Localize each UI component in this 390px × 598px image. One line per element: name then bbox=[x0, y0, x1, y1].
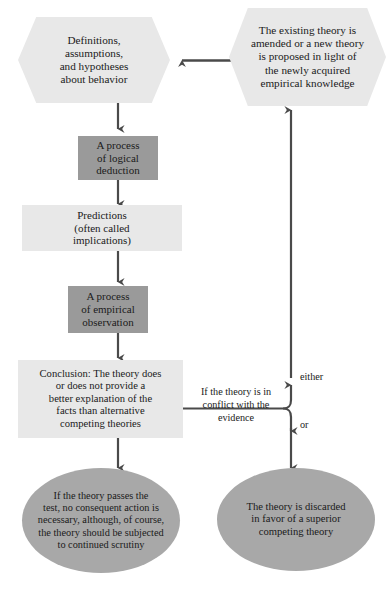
node-amended-theory-text: The existing theory is amended or a new … bbox=[251, 24, 364, 90]
node-definitions-text: Definitions, assumptions, and hypotheses… bbox=[60, 34, 129, 87]
node-theory-discarded-ellipse: The theory is discarded in favor of a su… bbox=[217, 468, 375, 571]
node-theory-discarded-text: The theory is discarded in favor of a su… bbox=[240, 501, 351, 539]
node-predictions-box: Predictions (often called implications) bbox=[22, 205, 182, 251]
flowchart-diagram: Definitions, assumptions, and hypotheses… bbox=[0, 0, 390, 598]
node-empirical-observation-text: A process of empirical observation bbox=[81, 290, 134, 329]
node-logical-deduction-box: A process of logical deduction bbox=[78, 136, 158, 180]
edge-label-either: either bbox=[300, 371, 348, 384]
node-theory-passes-ellipse: If the theory passes the test, no conseq… bbox=[22, 468, 180, 573]
node-empirical-observation-box: A process of empirical observation bbox=[68, 286, 148, 333]
node-conclusion-box: Conclusion: The theory does or does not … bbox=[18, 360, 183, 438]
node-definitions-hexagon: Definitions, assumptions, and hypotheses… bbox=[18, 17, 170, 103]
node-predictions-text: Predictions (often called implications) bbox=[73, 209, 131, 248]
edge-label-conflict: If the theory is in conflict with the ev… bbox=[186, 386, 286, 424]
node-theory-passes-text: If the theory passes the test, no conseq… bbox=[32, 490, 170, 551]
node-logical-deduction-text: A process of logical deduction bbox=[96, 139, 139, 178]
node-conclusion-text: Conclusion: The theory does or does not … bbox=[40, 368, 162, 431]
edge-label-or: or bbox=[300, 419, 348, 432]
node-amended-theory-hexagon: The existing theory is amended or a new … bbox=[229, 8, 386, 106]
